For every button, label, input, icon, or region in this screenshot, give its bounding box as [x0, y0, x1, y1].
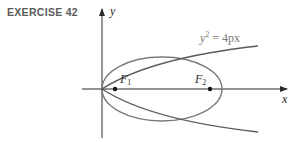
parabola-equation-label: y2 = 4px — [199, 30, 240, 45]
x-axis-label: x — [281, 92, 288, 106]
focus-f2-point — [208, 87, 212, 91]
conic-diagram: F1 F2 x y y2 = 4px — [0, 0, 292, 143]
y-axis-label: y — [109, 4, 116, 18]
focus-f2-label: F2 — [194, 72, 206, 87]
focus-f1-point — [113, 87, 117, 91]
